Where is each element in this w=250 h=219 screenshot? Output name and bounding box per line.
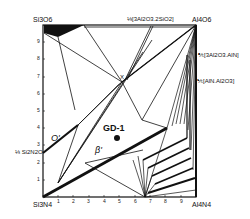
y-tick: 6 <box>37 91 40 96</box>
tie-line <box>85 150 143 163</box>
tie-line <box>84 25 122 82</box>
corner-label-al4n4: Al4N4 <box>192 201 211 208</box>
corner-label-si3o6: Si3O6 <box>33 16 52 23</box>
tie-line <box>78 85 118 125</box>
gd-1-label: GD-1 <box>103 124 125 133</box>
polytypoid-band <box>148 148 189 168</box>
x-tick: 1 <box>57 199 60 204</box>
tie-line <box>125 26 151 80</box>
x-tick: 9 <box>180 199 183 204</box>
liquid-region <box>44 25 84 37</box>
tie-line <box>58 37 75 110</box>
polytypoid-band <box>143 138 187 160</box>
tie-line <box>118 25 196 85</box>
gd-1-point <box>114 135 120 141</box>
x-tick: 4 <box>103 199 106 204</box>
o-prime-label: O' <box>51 134 60 143</box>
y-tick: 7 <box>37 74 40 79</box>
aln-polytype-label-lower: ⅕[AlN.Al2O3] <box>197 78 234 84</box>
y-tick: 2 <box>37 160 40 165</box>
y-tick: 5 <box>37 108 40 113</box>
tie-line <box>122 82 142 120</box>
x-tick: 2 <box>72 199 75 204</box>
polytypoid-band <box>155 168 193 184</box>
x-tick: 5 <box>118 199 121 204</box>
y-tick: 1 <box>37 177 40 182</box>
x-tick: 3 <box>87 199 90 204</box>
polytypoid-band <box>152 158 191 176</box>
y-tick: 3 <box>37 142 40 147</box>
x-tick: 6 <box>134 199 137 204</box>
x-tick: 8 <box>164 199 167 204</box>
y-tick: 8 <box>37 56 40 61</box>
polytypoid-band <box>148 178 195 193</box>
y-tick: 4 <box>37 125 40 130</box>
si2n2o-label: ⅓ Si2N2O <box>15 149 43 155</box>
aln-polytype-label-upper: ⅗[3Al2O3.AlN] <box>198 52 239 58</box>
tie-line <box>142 120 167 128</box>
x-tick: 7 <box>149 199 152 204</box>
tie-line <box>142 25 196 120</box>
y-tick: 9 <box>37 39 40 44</box>
beta-prime-label: β' <box>95 146 102 155</box>
tie-line <box>44 33 122 82</box>
corner-label-si3n4: Si3N4 <box>33 201 52 208</box>
corner-label-al4o6: Al4O6 <box>192 16 211 23</box>
mullite-label: ⅓[3Al2O3.2SiO2] <box>127 16 174 22</box>
tie-line <box>85 163 145 197</box>
x-phase-label: X <box>120 74 124 80</box>
